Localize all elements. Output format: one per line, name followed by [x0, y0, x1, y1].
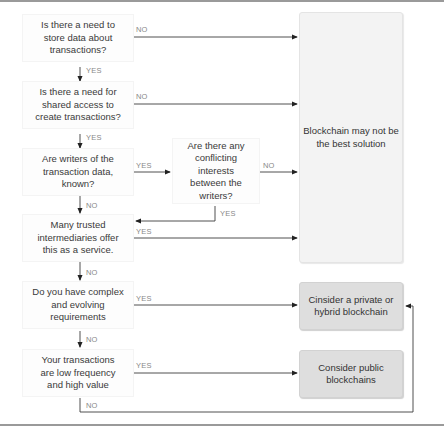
edge-label-q6-yes: YES — [136, 294, 152, 303]
edge-label-q6-no: NO — [86, 335, 98, 344]
decision-text: Are writers of the transaction data, kno… — [37, 153, 119, 191]
edge-label-q3-yes: YES — [136, 161, 152, 170]
decision-text: Are there any conflicting interests betw… — [186, 140, 246, 203]
outcome-public-blockchains: Consider public blockchains — [299, 350, 403, 398]
edge-label-q7-no: NO — [86, 401, 98, 410]
outcome-not-best-solution: Blockchain may not be the best solution — [299, 12, 403, 263]
edge-label-q1-no: NO — [136, 25, 148, 34]
decision-text: Is there a need to store data about tran… — [38, 19, 118, 57]
decision-shared-access: Is there a need for shared access to cre… — [22, 81, 134, 129]
edge-label-q7-yes: YES — [136, 361, 152, 370]
outcome-text: Consider public blockchains — [316, 362, 386, 387]
decision-complex-requirements: Do you have complex and evolving require… — [22, 281, 134, 329]
decision-text: Do you have complex and evolving require… — [32, 286, 124, 324]
outcome-private-hybrid: Cinsider a private or hybrid blockchain — [299, 282, 403, 330]
edge-label-q5-no: NO — [86, 268, 98, 277]
decision-store-data: Is there a need to store data about tran… — [22, 14, 134, 62]
edge-label-q5-yes: YES — [136, 227, 152, 236]
outcome-text: Blockchain may not be the best solution — [303, 125, 399, 150]
decision-text: Is there a need for shared access to cre… — [35, 86, 121, 124]
decision-low-frequency: Your transactions are low frequency and … — [22, 349, 134, 397]
outcome-text: Cinsider a private or hybrid blockchain — [305, 294, 397, 319]
edge-label-q4-no: NO — [263, 161, 275, 170]
decision-trusted-intermediaries: Many trusted intermediaries offer this a… — [22, 214, 134, 262]
decision-text: Your transactions are low frequency and … — [38, 354, 118, 392]
decision-writers-known: Are writers of the transaction data, kno… — [22, 148, 134, 196]
edge-label-q2-no: NO — [136, 92, 148, 101]
edge-label-q4-yes: YES — [220, 209, 236, 218]
decision-conflicting-interests: Are there any conflicting interests betw… — [172, 138, 260, 204]
edge-label-q1-yes: YES — [86, 66, 102, 75]
decision-text: Many trusted intermediaries offer this a… — [33, 219, 123, 257]
edge-label-q3-no: NO — [86, 201, 98, 210]
edge-label-q2-yes: YES — [86, 133, 102, 142]
